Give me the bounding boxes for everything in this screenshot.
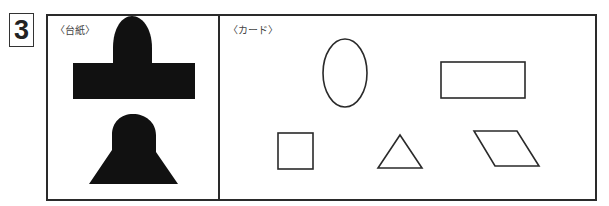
card-square[interactable] — [278, 133, 313, 169]
card-ellipse[interactable] — [323, 39, 367, 107]
shapes-canvas — [0, 0, 609, 206]
base-shape-dome-rectangle — [73, 16, 195, 99]
card-triangle[interactable] — [378, 135, 422, 168]
card-parallelogram[interactable] — [474, 131, 539, 166]
base-shape-dome-trapezoid — [89, 114, 178, 184]
card-rectangle[interactable] — [441, 62, 525, 98]
